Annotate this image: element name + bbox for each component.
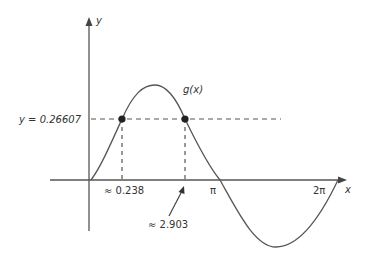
hline-label-text: y = 0.26607 [18,114,82,125]
x-axis-label: x [344,184,351,195]
y-axis-arrow-icon [86,17,93,26]
point-2-label: ≈ 2.903 [148,219,188,230]
chart-canvas: y x y = 0.26607 g(x) ≈ 0.238 π 2π ≈ 2.90… [0,0,370,261]
point-2-pointer-arrow-icon [179,186,185,194]
y-axis-label: y [95,15,103,26]
intersection-point-1 [118,115,125,122]
point-2-pointer [169,191,182,216]
point-1-label: ≈ 0.238 [104,185,144,196]
curve-g [91,85,338,247]
two-pi-tick-label: 2π [313,185,325,196]
intersection-point-2 [181,115,188,122]
x-axis-arrow-icon [338,177,347,184]
hline-label: y = 0.26607 [18,114,82,125]
pi-tick-label: π [210,185,216,196]
function-label: g(x) [183,84,203,95]
